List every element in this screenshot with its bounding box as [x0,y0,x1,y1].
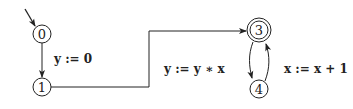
edge-3-4 [250,42,254,78]
node-1-label: 1 [38,80,46,95]
node-3-label: 3 [255,23,263,38]
node-1: 1 [33,78,51,96]
node-0-label: 0 [38,27,46,42]
edge-4-3 [265,44,269,81]
edge-4-3-label: x := x + 1 [284,62,348,76]
node-4: 4 [250,80,268,98]
node-3: 3 [247,18,271,42]
edge-0-1-label: y := 0 [53,52,92,66]
edge-3-4-label: y := y ∗ x [163,62,225,76]
automaton-diagram: 0 y := 0 1 3 y := y ∗ x x := x + 1 4 [0,0,353,109]
node-4-label: 4 [255,82,263,97]
initial-arrow [25,9,35,26]
node-0: 0 [33,25,51,43]
